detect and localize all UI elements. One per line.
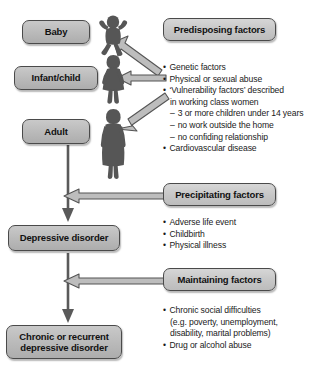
stage-box-chronic-recurrent[interactable]: Chronic or recurrent depressive disorder bbox=[6, 325, 122, 359]
bullets-maintaining: Chronic social difficulties (e.g. povert… bbox=[163, 305, 309, 351]
arrow-predisposing-to-adult bbox=[117, 93, 169, 131]
bullet-item: Cardiovascular disease bbox=[170, 143, 309, 155]
bullet-item: Chronic social difficulties bbox=[170, 305, 309, 317]
bullet-item: Adverse life event bbox=[170, 217, 309, 229]
stage-label-chronic-line2: depressive disorder bbox=[20, 342, 107, 354]
bullet-continuation: (e.g. poverty, unemployment, bbox=[163, 317, 309, 329]
factor-heading-predisposing: Predisposing factors bbox=[174, 24, 266, 35]
bullet-item: Physical or sexual abuse bbox=[170, 74, 309, 86]
bullet-item: Drug or alcohol abuse bbox=[170, 340, 309, 352]
factor-box-maintaining[interactable]: Maintaining factors bbox=[163, 268, 276, 291]
stage-box-adult[interactable]: Adult bbox=[22, 119, 90, 144]
factor-box-predisposing[interactable]: Predisposing factors bbox=[163, 18, 276, 41]
stage-box-infant-child[interactable]: Infant/child bbox=[14, 66, 98, 90]
bullet-item: Genetic factors bbox=[170, 62, 309, 74]
bullet-item: Physical illness bbox=[170, 240, 309, 252]
bullets-predisposing: Genetic factors Physical or sexual abuse… bbox=[163, 62, 309, 155]
bullets-precipitating: Adverse life event Childbirth Physical i… bbox=[163, 217, 309, 252]
stage-label-depressive-disorder: Depressive disorder bbox=[20, 232, 109, 244]
arrow-precipitating-to-flow bbox=[64, 189, 175, 203]
stage-label-infant-child: Infant/child bbox=[32, 72, 81, 84]
stage-label-chronic-line1: Chronic or recurrent bbox=[19, 331, 108, 343]
bullet-item: Childbirth bbox=[170, 229, 309, 241]
adult-silhouette bbox=[101, 109, 126, 179]
bullet-subitem: 3 or more children under 14 years bbox=[163, 108, 309, 120]
arrow-predisposing-to-baby bbox=[114, 36, 162, 76]
bullet-continuation: disability, marital problems) bbox=[163, 328, 309, 340]
arrow-maintaining-to-flow bbox=[64, 274, 175, 288]
bullet-subitem: no work outside the home bbox=[163, 120, 309, 132]
factor-box-precipitating[interactable]: Precipitating factors bbox=[163, 183, 276, 206]
bullet-item: ‘Vulnerability factors’ described bbox=[170, 85, 309, 97]
child-silhouette bbox=[102, 55, 124, 104]
bullet-subitem: no confiding relationship bbox=[163, 132, 309, 144]
stage-box-baby[interactable]: Baby bbox=[22, 20, 90, 44]
stage-label-adult: Adult bbox=[44, 126, 68, 138]
factor-heading-maintaining: Maintaining factors bbox=[177, 274, 261, 285]
stage-label-baby: Baby bbox=[45, 26, 68, 38]
bullet-continuation: in working class women bbox=[163, 97, 309, 109]
stage-box-depressive-disorder[interactable]: Depressive disorder bbox=[8, 225, 120, 251]
factor-heading-precipitating: Precipitating factors bbox=[175, 189, 264, 200]
arrow-depressive-to-chronic bbox=[62, 253, 74, 323]
aetiology-flow-diagram: Baby Infant/child Adult Depressive disor… bbox=[0, 0, 309, 365]
arrow-adult-to-depressive bbox=[62, 145, 74, 222]
